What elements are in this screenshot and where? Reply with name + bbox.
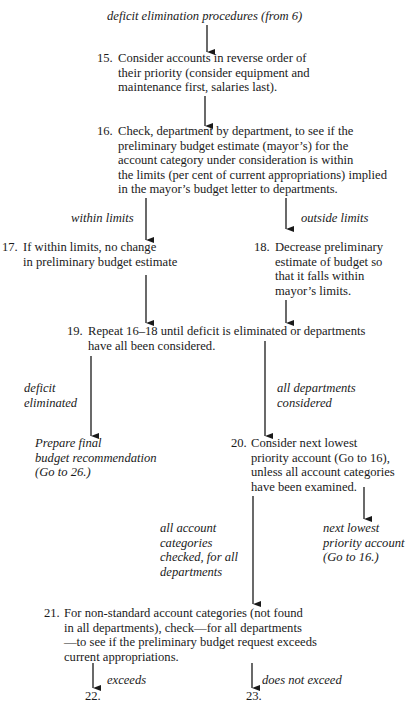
- step-text: Check, department by department, to see …: [118, 124, 387, 197]
- flow-start-title: deficit elimination procedures (from 6): [107, 9, 302, 24]
- step-text: If within limits, no change in prelimina…: [23, 240, 177, 269]
- outcome-prepare-final-budget: Prepare final budget recommendation (Go …: [35, 436, 157, 480]
- step-text: Consider next lowest priority account (G…: [251, 436, 395, 494]
- step-number: 16.: [97, 124, 113, 139]
- step-text: Consider accounts in reverse order of th…: [118, 51, 310, 95]
- step-number: 19.: [67, 324, 83, 339]
- step-number: 20.: [231, 436, 247, 451]
- label-all-account-categories-checked: all account categories checked, for all …: [160, 521, 238, 579]
- step-text: For non-standard account categories (not…: [64, 606, 317, 664]
- goto-step-22: 22.: [85, 689, 101, 704]
- step-text: Decrease preliminary estimate of budget …: [275, 240, 383, 298]
- label-deficit-eliminated: deficit eliminated: [24, 381, 77, 410]
- label-outside-limits: outside limits: [301, 211, 369, 226]
- label-next-lowest-priority-account: next lowest priority account (Go to 16.): [323, 521, 405, 565]
- label-does-not-exceed: does not exceed: [262, 673, 342, 688]
- goto-step-23: 23.: [246, 689, 262, 704]
- step-number: 18.: [254, 240, 270, 255]
- step-number: 21.: [44, 606, 60, 621]
- label-exceeds: exceeds: [107, 673, 146, 688]
- step-number: 15.: [97, 51, 113, 66]
- step-number: 17.: [2, 240, 18, 255]
- step-text: Repeat 16–18 until deficit is eliminated…: [88, 324, 365, 353]
- label-all-departments-considered: all departments considered: [277, 381, 356, 410]
- label-within-limits: within limits: [71, 211, 134, 226]
